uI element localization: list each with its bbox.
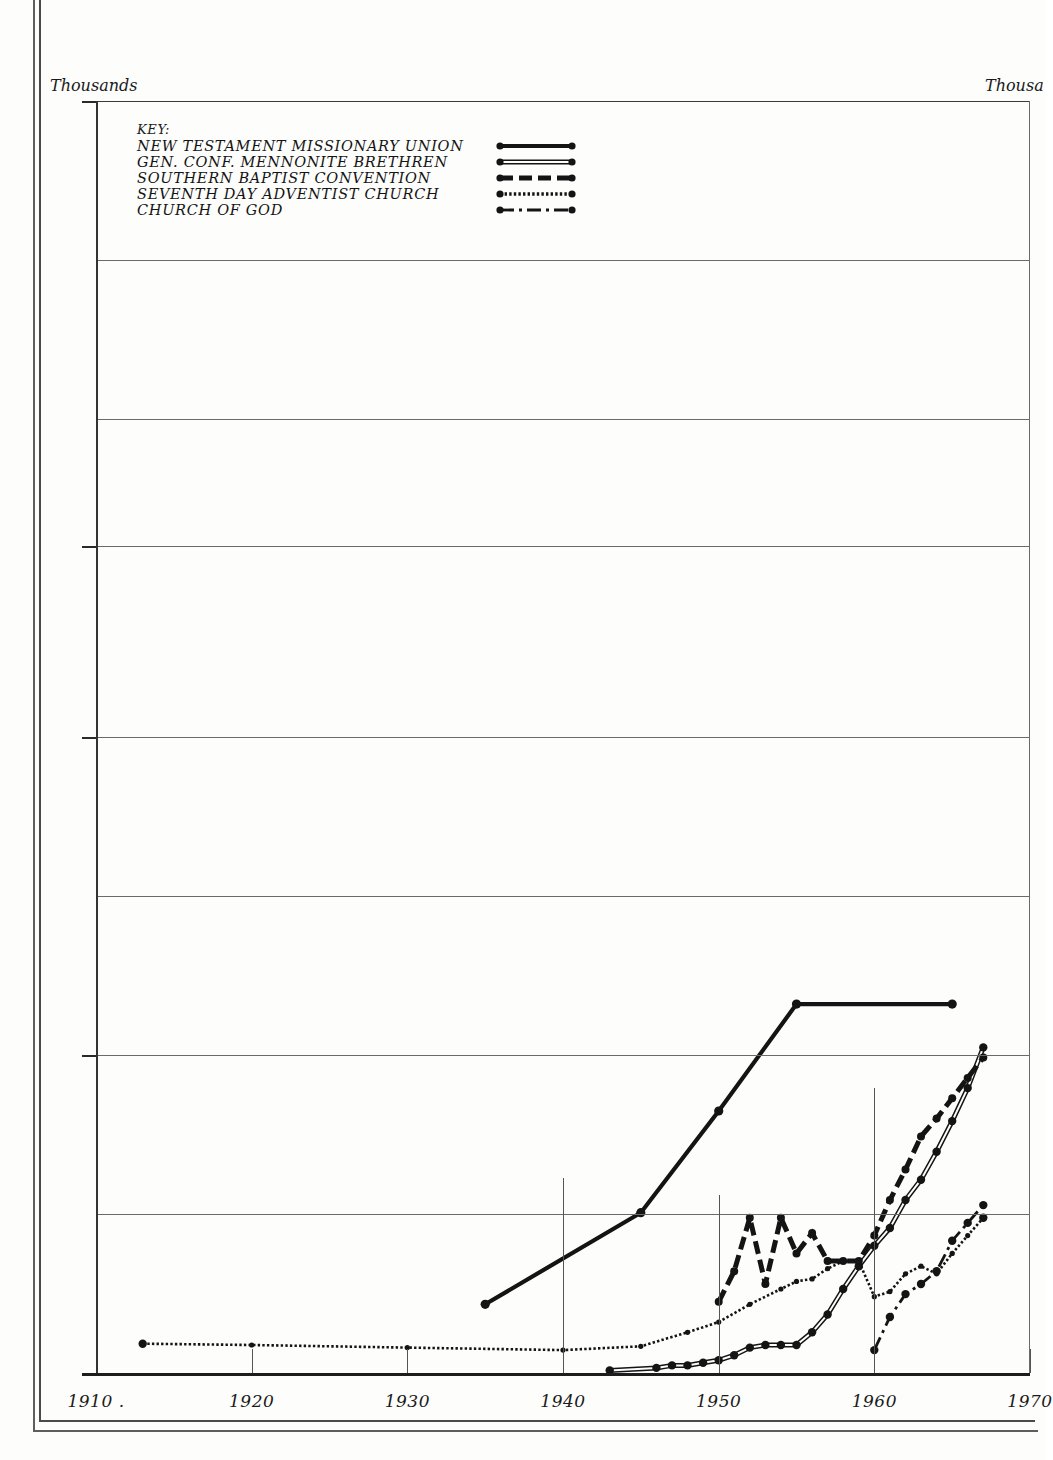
- legend-entry: SEVENTH DAY ADVENTIST CHURCH: [137, 186, 597, 202]
- legend-swatch-dash-dot-icon: [495, 202, 577, 218]
- x-axis-label-1940: 1940: [540, 1391, 585, 1411]
- legend-swatch-double-line-icon: [495, 154, 577, 170]
- x-axis-label-1920: 1920: [229, 1391, 274, 1411]
- y-axis-caption-right: Thousa: [985, 76, 1044, 95]
- x-axis-label-1950: 1950: [696, 1391, 741, 1411]
- y-tick-1.25: [82, 1055, 96, 1057]
- legend-entry: SOUTHERN BAPTIST CONVENTION: [137, 170, 597, 186]
- legend-label: NEW TESTAMENT MISSIONARY UNION: [137, 138, 464, 154]
- legend-label: GEN. CONF. MENNONITE BRETHREN: [137, 154, 448, 170]
- x-gridline-1950: [719, 1195, 720, 1373]
- x-axis-line: [82, 1373, 1030, 1376]
- legend-label: CHURCH OF GOD: [137, 202, 283, 218]
- x-gridline-1930: [407, 1349, 408, 1373]
- y-axis-line: [96, 101, 98, 1373]
- x-gridline-1920: [252, 1349, 253, 1373]
- gridline-2.5: [96, 737, 1030, 738]
- legend-label: SOUTHERN BAPTIST CONVENTION: [137, 170, 431, 186]
- gridline-1.25: [96, 1055, 1030, 1056]
- series-double-line: [606, 1043, 988, 1375]
- gridline-4.375: [96, 260, 1030, 261]
- x-axis-label-1970: 1970: [1007, 1391, 1052, 1411]
- legend-swatch-dashed-thick-icon: [495, 170, 577, 186]
- legend-title: KEY:: [137, 122, 597, 137]
- x-axis-label-1910: 1910 .: [67, 1391, 124, 1411]
- gridline-1.875: [96, 896, 1030, 897]
- x-axis-label-1960: 1960: [852, 1391, 897, 1411]
- legend-swatch-solid-thick-icon: [495, 138, 577, 154]
- plot-area: 53.252.51.25 1910 .192019301940195019601…: [96, 101, 1030, 1373]
- series-dash-dot: [870, 1201, 987, 1354]
- legend-entry: NEW TESTAMENT MISSIONARY UNION: [137, 138, 597, 154]
- legend-rows: NEW TESTAMENT MISSIONARY UNIONGEN. CONF.…: [137, 138, 597, 218]
- gridline-5: [96, 101, 1030, 102]
- y-axis-caption-left: Thousands: [50, 76, 137, 95]
- legend-entry: GEN. CONF. MENNONITE BRETHREN: [137, 154, 597, 170]
- chart-legend: KEY: NEW TESTAMENT MISSIONARY UNIONGEN. …: [137, 122, 597, 218]
- y-tick-5: [82, 101, 96, 103]
- right-border-line: [1029, 101, 1030, 1373]
- x-gridline-1960: [874, 1088, 875, 1373]
- x-axis-label-1930: 1930: [385, 1391, 430, 1411]
- y-tick-3.25: [82, 546, 96, 548]
- series-dashed-thick: [715, 1054, 988, 1306]
- gridline-3.75: [96, 419, 1030, 420]
- x-gridline-1940: [563, 1178, 564, 1373]
- legend-swatch-dotted-fine-icon: [495, 186, 577, 202]
- y-tick-2.5: [82, 737, 96, 739]
- gridline-3.25: [96, 546, 1030, 547]
- x-gridline-1970: [1030, 1349, 1031, 1373]
- legend-label: SEVENTH DAY ADVENTIST CHURCH: [137, 186, 439, 202]
- legend-entry: CHURCH OF GOD: [137, 202, 597, 218]
